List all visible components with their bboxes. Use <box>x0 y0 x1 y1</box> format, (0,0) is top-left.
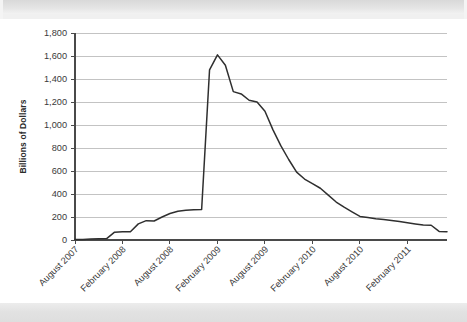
y-tick-label: 1,600 <box>44 51 67 61</box>
x-tick-label: February 2011 <box>364 244 413 293</box>
y-tick-label: 800 <box>52 143 67 153</box>
y-axis-title-layer: Billions of Dollars <box>18 99 28 173</box>
y-tick-label: 0 <box>62 235 67 245</box>
page-top-band <box>0 0 467 14</box>
x-axis-layer: August 2007February 2008August 2008Febru… <box>37 240 413 294</box>
y-tick-label: 1,400 <box>44 74 67 84</box>
y-tick-label: 1,800 <box>44 28 67 38</box>
chart-page: 02004006008001,0001,2001,4001,6001,800 A… <box>0 0 467 322</box>
data-line-layer <box>75 55 447 240</box>
x-tick-label: August 2010 <box>322 244 366 288</box>
y-tick-label: 1,000 <box>44 120 67 130</box>
y-tick-label: 1,200 <box>44 97 67 107</box>
y-tick-label: 600 <box>52 166 67 176</box>
page-bottom-band <box>0 303 467 322</box>
data-series-line <box>75 55 447 240</box>
y-tick-label: 200 <box>52 212 67 222</box>
x-tick-label: February 2008 <box>79 244 128 293</box>
grid-layer <box>75 33 447 217</box>
y-tick-label: 400 <box>52 189 67 199</box>
x-tick-label: August 2008 <box>132 244 176 288</box>
x-tick-label: August 2007 <box>37 244 81 288</box>
chart-canvas: 02004006008001,0001,2001,4001,6001,800 A… <box>0 19 467 303</box>
y-axis-title: Billions of Dollars <box>18 99 28 173</box>
x-tick-label: February 2009 <box>174 244 223 293</box>
line-chart-figure: 02004006008001,0001,2001,4001,6001,800 A… <box>0 19 467 303</box>
x-tick-label: February 2010 <box>269 244 318 293</box>
x-tick-label: August 2009 <box>227 244 271 288</box>
y-axis-layer: 02004006008001,0001,2001,4001,6001,800 <box>44 28 447 245</box>
